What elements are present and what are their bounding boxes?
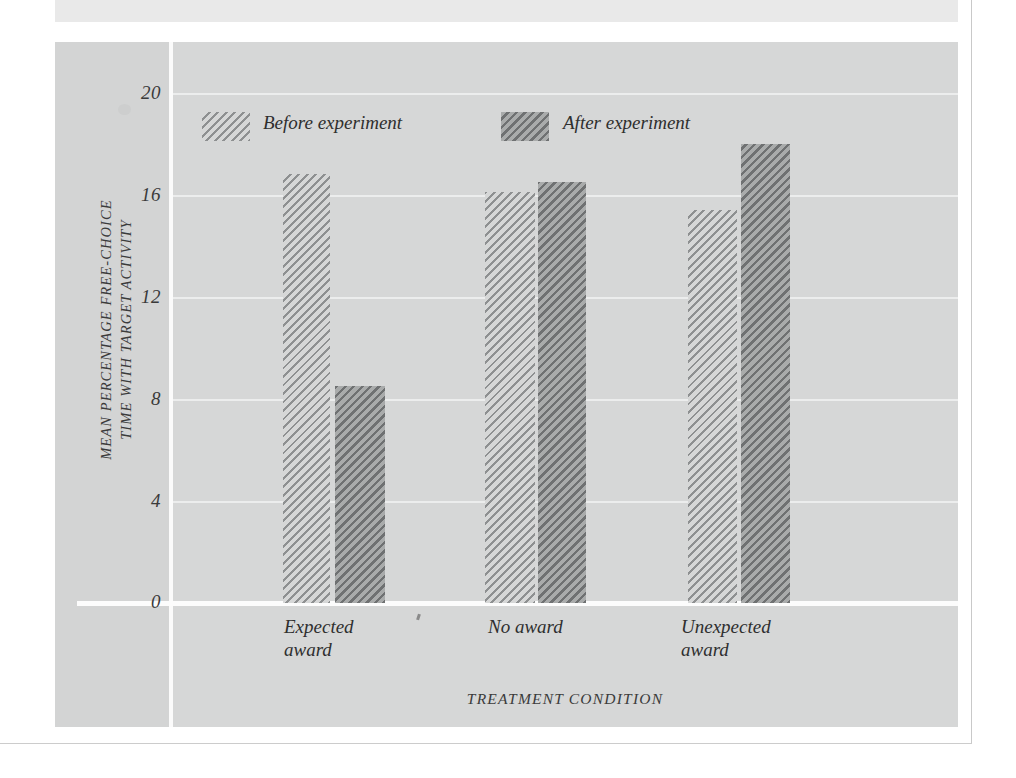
y-axis-title: MEAN PERCENTAGE FREE-CHOICE TIME WITH TA…: [97, 150, 136, 510]
bar-after-unexpected-award: [741, 144, 790, 603]
bar-before-expected-award: [283, 174, 330, 603]
y-axis-line: [169, 42, 173, 727]
x-tick-label-no-award: No award: [488, 615, 563, 638]
bar-after-no-award: [538, 182, 586, 603]
legend-label-before: Before experiment: [263, 112, 402, 134]
legend-label-after: After experiment: [563, 112, 690, 134]
gridline-20: [172, 93, 958, 95]
page-edge-right-rule: [971, 0, 972, 744]
bar-after-expected-award: [335, 386, 385, 603]
x-tick-label-unexpected-award: Unexpected award: [681, 615, 771, 661]
y-tick-label-20: 20: [111, 82, 161, 104]
page-top-strip: [55, 0, 958, 22]
figure-panel: 20 16 12 8 4 0 MEAN PERCENTAGE FREE-CHOI…: [55, 42, 958, 727]
page-edge-bottom-rule: [0, 743, 972, 744]
bar-before-no-award: [485, 192, 535, 603]
x-tick-label-expected-award: Expected award: [284, 615, 354, 661]
legend-swatch-before: [202, 112, 250, 141]
legend-swatch-after: [501, 112, 549, 141]
x-axis-title: TREATMENT CONDITION: [172, 690, 958, 708]
scan-speck-small: [416, 614, 421, 621]
y-tick-label-0: 0: [111, 591, 161, 613]
bar-before-unexpected-award: [688, 210, 737, 603]
